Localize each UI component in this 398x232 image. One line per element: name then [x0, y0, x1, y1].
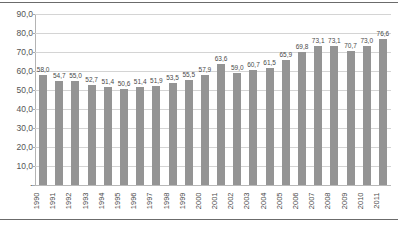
bar[interactable]: [314, 46, 322, 185]
x-axis-tick-label: 1993: [80, 193, 89, 221]
bar[interactable]: [298, 52, 306, 185]
gridline: [35, 33, 391, 34]
y-axis-tick-label: 70,0: [2, 48, 33, 56]
bar-value-label: 76,6: [372, 30, 394, 37]
y-axis-tick-label: 20,0: [2, 143, 33, 151]
x-axis-tick-label: 1997: [145, 193, 154, 221]
bar[interactable]: [363, 46, 371, 185]
bar[interactable]: [120, 89, 128, 185]
x-axis-tick-label: 2010: [355, 193, 364, 221]
x-axis: 1990199119921993199419951996199719981999…: [35, 188, 391, 220]
bar[interactable]: [39, 75, 47, 185]
x-axis-tick-label: 2004: [258, 193, 267, 221]
x-axis-tick-label: 2007: [307, 193, 316, 221]
x-axis-tick-label: 2005: [274, 193, 283, 221]
bar-value-label: 63,6: [210, 55, 232, 62]
bar[interactable]: [201, 75, 209, 185]
x-axis-tick-label: 2003: [242, 193, 251, 221]
y-axis: -10,020,030,040,050,060,070,080,090,0: [0, 14, 33, 186]
bar-chart: -10,020,030,040,050,060,070,080,090,0 58…: [0, 0, 398, 232]
x-axis-tick-label: 1991: [48, 193, 57, 221]
bar[interactable]: [88, 85, 96, 185]
y-axis-tick-label: 60,0: [2, 67, 33, 75]
bar[interactable]: [152, 86, 160, 185]
bar[interactable]: [104, 87, 112, 185]
x-axis-tick-label: 1992: [64, 193, 73, 221]
x-axis-tick-label: 2002: [226, 193, 235, 221]
y-axis-tick-label: 80,0: [2, 29, 33, 37]
x-axis-tick-label: 2011: [371, 193, 380, 221]
y-axis-tick-label: 30,0: [2, 124, 33, 132]
x-axis-tick-label: 2006: [291, 193, 300, 221]
bar-value-label: 65,9: [275, 51, 297, 58]
x-axis-tick-label: 2000: [193, 193, 202, 221]
bar[interactable]: [249, 70, 257, 185]
y-axis-tick-label: 90,0: [2, 10, 33, 18]
y-axis-tick-label: 50,0: [2, 86, 33, 94]
x-axis-tick-label: 1995: [113, 193, 122, 221]
x-axis-tick-label: 1999: [177, 193, 186, 221]
bottom-rule: [0, 219, 398, 220]
top-rule: [0, 2, 398, 3]
gridline: [35, 14, 391, 15]
bar[interactable]: [217, 64, 225, 185]
bar[interactable]: [266, 68, 274, 185]
bar[interactable]: [233, 73, 241, 185]
bar[interactable]: [330, 46, 338, 185]
bar[interactable]: [169, 83, 177, 185]
bar[interactable]: [185, 80, 193, 185]
x-axis-tick-label: 2009: [339, 193, 348, 221]
bar[interactable]: [55, 81, 63, 185]
bar[interactable]: [282, 60, 290, 185]
x-axis-tick-label: 1990: [32, 193, 41, 221]
bar[interactable]: [379, 39, 387, 185]
x-axis-tick: 2011: [376, 188, 390, 220]
x-axis-tick-label: 2008: [323, 193, 332, 221]
bar-value-label: 57,9: [194, 66, 216, 73]
bar[interactable]: [136, 87, 144, 185]
x-axis-tick-label: 2001: [210, 193, 219, 221]
gridline: [35, 185, 391, 186]
x-axis-tick-label: 1996: [129, 193, 138, 221]
bar-value-label: 73,0: [356, 37, 378, 44]
bar-value-label: 61,5: [259, 59, 281, 66]
bar-value-label: 69,8: [291, 43, 313, 50]
plot-area: 58,054,755,052,751,450,651,451,953,555,5…: [35, 14, 391, 185]
bar[interactable]: [347, 51, 355, 185]
x-axis-tick-label: 1998: [161, 193, 170, 221]
y-axis-tick-label: 40,0: [2, 105, 33, 113]
y-axis-tick-label: -: [2, 181, 33, 189]
y-axis-tick-label: 10,0: [2, 162, 33, 170]
x-axis-tick-label: 1994: [96, 193, 105, 221]
bar[interactable]: [71, 81, 79, 186]
